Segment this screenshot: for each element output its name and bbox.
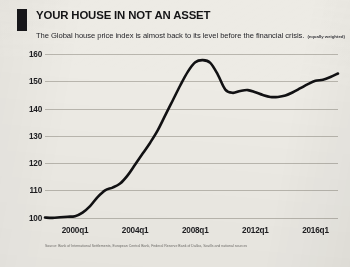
chart-subtitle-line: The Global house price index is almost b… xyxy=(36,24,345,42)
chart-figure: YOUR HOUSE IN NOT AN ASSET The Global ho… xyxy=(0,0,350,267)
y-axis-tick-label: 110 xyxy=(12,186,42,195)
y-axis-tick-label: 150 xyxy=(12,77,42,86)
x-axis-labels: 2000q12004q12008q12012q12016q1 xyxy=(45,226,338,238)
chart-title: YOUR HOUSE IN NOT AN ASSET xyxy=(36,9,210,21)
y-axis-tick-label: 120 xyxy=(12,159,42,168)
y-axis-tick-label: 140 xyxy=(12,104,42,113)
y-axis-tick-label: 130 xyxy=(12,131,42,140)
y-axis-tick-label: 160 xyxy=(12,50,42,59)
x-axis-tick-label: 2008q1 xyxy=(182,226,209,235)
x-axis-tick-label: 2004q1 xyxy=(122,226,149,235)
chart-subtitle: The Global house price index is almost b… xyxy=(36,31,304,40)
source-note: Source: Bank of International Settlement… xyxy=(45,244,247,248)
x-axis-tick-label: 2016q1 xyxy=(302,226,329,235)
chart-subtitle-note: (equally weighted) xyxy=(307,34,344,39)
title-accent-bar xyxy=(17,9,27,31)
chart-header: YOUR HOUSE IN NOT AN ASSET The Global ho… xyxy=(0,0,350,40)
series-layer xyxy=(45,46,338,223)
series-line-global-house-price-index xyxy=(45,60,338,218)
y-axis-tick-label: 100 xyxy=(12,213,42,222)
x-axis-tick-label: 2000q1 xyxy=(62,226,89,235)
x-axis-tick-label: 2012q1 xyxy=(242,226,269,235)
plot-area xyxy=(45,46,338,223)
y-axis-labels: 100110120130140150160 xyxy=(8,46,42,223)
